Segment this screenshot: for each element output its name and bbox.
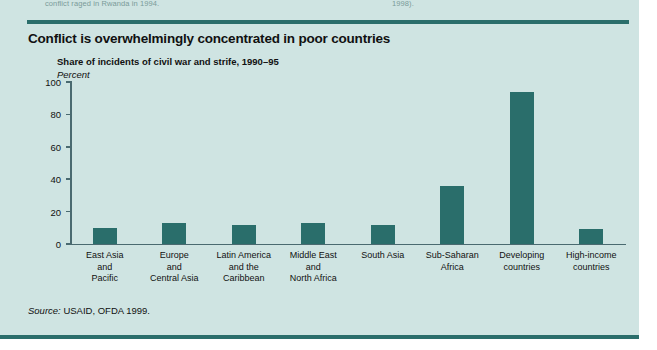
x-axis-category-line: Europe: [142, 250, 208, 262]
x-axis-category-label: South Asia: [348, 250, 418, 285]
figure-subtitle: Share of incidents of civil war and stri…: [57, 56, 279, 67]
y-axis-tick-label: 0: [21, 239, 61, 250]
x-axis-category-label: East AsiaandPacific: [70, 250, 140, 285]
bar: [440, 186, 464, 244]
x-axis-category-label: EuropeandCentral Asia: [140, 250, 210, 285]
x-axis-category-line: South Asia: [350, 250, 416, 262]
source-label: Source:: [28, 305, 61, 316]
y-axis-tick-label: 20: [21, 206, 61, 217]
figure-title: Conflict is overwhelmingly concentrated …: [28, 31, 390, 46]
bar: [579, 229, 603, 244]
y-axis-tick-label: 40: [21, 174, 61, 185]
bar-series: [70, 82, 626, 244]
bar: [162, 223, 186, 244]
x-axis-category-line: Central Asia: [142, 273, 208, 285]
x-axis-category-line: Caribbean: [211, 273, 277, 285]
bar-slot: [140, 82, 210, 244]
x-axis-category-line: Latin America: [211, 250, 277, 262]
y-axis-tick-label: 60: [21, 141, 61, 152]
x-axis-category-line: and the: [211, 262, 277, 274]
x-axis-category-line: North Africa: [281, 273, 347, 285]
page-header-fragment-left: conflict raged in Rwanda in 1994.: [45, 0, 159, 8]
x-axis-category-line: and: [72, 262, 138, 274]
y-axis-tick-label: 80: [21, 109, 61, 120]
x-axis-category-line: Sub-Saharan: [420, 250, 486, 262]
bar: [371, 225, 395, 244]
divider-rule-bottom: [0, 335, 639, 339]
x-axis-category-line: Middle East: [281, 250, 347, 262]
bar-slot: [557, 82, 627, 244]
source-value: USAID, OFDA 1999.: [61, 305, 150, 316]
bar: [232, 225, 256, 244]
page-header-fragment-right: 1998).: [392, 0, 414, 8]
bar: [301, 223, 325, 244]
x-axis-category-label: Sub-SaharanAfrica: [418, 250, 488, 285]
figure-page: conflict raged in Rwanda in 1994. 1998).…: [0, 0, 657, 350]
bar-slot: [418, 82, 488, 244]
x-axis-category-line: East Asia: [72, 250, 138, 262]
x-axis-category-line: and: [142, 262, 208, 274]
divider-rule-top: [27, 20, 629, 24]
x-axis-category-line: Pacific: [72, 273, 138, 285]
x-axis-category-line: countries: [489, 262, 555, 274]
bar-slot: [487, 82, 557, 244]
source-note: Source: USAID, OFDA 1999.: [28, 305, 150, 316]
x-axis-category-label: High-incomecountries: [557, 250, 627, 285]
x-axis-category-line: Developing: [489, 250, 555, 262]
bar-slot: [348, 82, 418, 244]
x-axis-category-label: Middle EastandNorth Africa: [279, 250, 349, 285]
y-axis-tick-label: 100: [21, 77, 61, 88]
x-axis-category-label: Developingcountries: [487, 250, 557, 285]
bar: [510, 92, 534, 244]
x-axis-category-label: Latin Americaand theCaribbean: [209, 250, 279, 285]
bar: [93, 228, 117, 244]
x-axis-category-line: High-income: [559, 250, 625, 262]
x-axis-category-line: Africa: [420, 262, 486, 274]
y-axis-unit-label: Percent: [57, 69, 90, 80]
x-axis-category-line: and: [281, 262, 347, 274]
x-axis-category-line: countries: [559, 262, 625, 274]
bar-slot: [279, 82, 349, 244]
bar-slot: [70, 82, 140, 244]
bar-slot: [209, 82, 279, 244]
x-axis-labels: East AsiaandPacificEuropeandCentral Asia…: [70, 250, 626, 285]
